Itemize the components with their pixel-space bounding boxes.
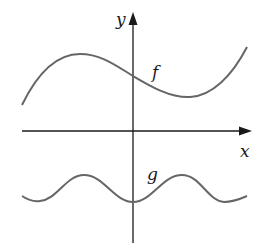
curve-f-label: f [150,62,161,82]
y-axis-label: y [115,9,126,29]
graph-canvas: y x f g [0,0,255,250]
curve-g-label: g [147,164,158,184]
curve-f [22,47,247,105]
curve-g [22,175,247,202]
y-axis-arrow-icon [129,12,138,25]
x-axis-label: x [240,141,250,161]
x-axis-arrow-icon [239,127,252,136]
